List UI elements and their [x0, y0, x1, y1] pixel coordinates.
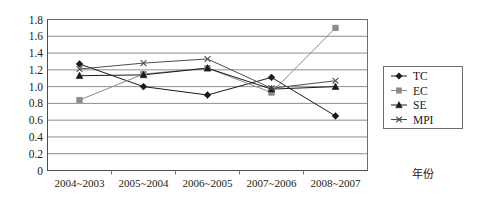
chart-canvas: 1.81.61.41.21.00.80.60.40.20 2004~200320… — [0, 0, 495, 210]
line-chart: 1.81.61.41.21.00.80.60.40.20 2004~200320… — [0, 0, 495, 210]
y-axis-tick-label: 0.8 — [29, 97, 44, 109]
y-axis-tick-label: 1.4 — [29, 47, 44, 59]
x-axis-category-label: 2008~2007 — [311, 177, 361, 189]
y-axis-tick-label: 1.8 — [29, 14, 44, 26]
x-axis-category-labels: 2004~20032005~20042006~20052007~20062008… — [55, 177, 361, 189]
x-axis-title: 年份 — [412, 167, 434, 180]
data-point-square — [396, 88, 401, 93]
legend-item-label: EC — [413, 85, 428, 97]
y-axis-tick-label: 0.4 — [29, 131, 44, 143]
y-axis-tick-label: 0.2 — [29, 148, 44, 160]
x-axis-category-label: 2004~2003 — [55, 177, 105, 189]
y-axis-tick-label: 1.2 — [29, 64, 44, 76]
legend-item-label: TC — [413, 70, 428, 82]
x-axis-category-label: 2007~2006 — [247, 177, 297, 189]
x-axis-category-label: 2006~2005 — [183, 177, 233, 189]
data-point-square — [333, 25, 339, 31]
x-axis-category-label: 2005~2004 — [119, 177, 169, 189]
y-axis-tick-label: 0.6 — [29, 114, 44, 126]
legend: TCECSEMPI — [384, 67, 463, 129]
legend-item-label: MPI — [413, 114, 434, 126]
y-axis-tick-label: 0 — [37, 165, 43, 177]
legend-item-label: SE — [413, 99, 426, 111]
y-axis-tick-label: 1.6 — [29, 30, 44, 42]
y-axis-tick-label: 1.0 — [29, 81, 44, 93]
data-point-square — [77, 97, 83, 103]
